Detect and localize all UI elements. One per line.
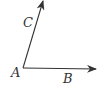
label-a: A xyxy=(10,65,20,80)
label-c: C xyxy=(23,15,33,30)
label-b: B xyxy=(62,71,73,86)
ray-ab xyxy=(23,68,96,69)
angle-diagram: C A B xyxy=(0,0,107,93)
ray-ac xyxy=(23,1,43,68)
